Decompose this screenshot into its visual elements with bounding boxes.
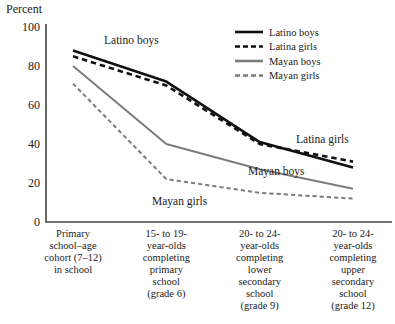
y-tick-40: 40 (28, 137, 40, 151)
x-axis-label-4: 20- to 24- (332, 228, 374, 239)
x-axis-label-4: year-olds (334, 240, 373, 251)
x-axis-label-1: cohort (7–12) (44, 252, 102, 264)
x-axis-label-2: completing (143, 252, 191, 263)
y-tick-0: 0 (34, 215, 40, 229)
annotation-mayan-boys: Mayan boys (248, 165, 305, 178)
y-axis-title: Percent (6, 2, 43, 16)
x-axis-label-2: primary (150, 264, 184, 275)
x-axis-label-1: Primary (56, 228, 91, 239)
x-axis-label-2: school (153, 276, 180, 287)
x-axis-label-3: lower (248, 264, 272, 275)
chart-legend: Latino boysLatina girlsMayan boysMayan g… (235, 27, 321, 82)
x-axis-label-4: upper (341, 264, 365, 275)
x-axis-label-4: school (339, 288, 366, 299)
annotation-mayan-girls: Mayan girls (152, 195, 208, 208)
chart-container: Percent 100 80 60 40 20 0 Latino boysLat… (0, 0, 395, 324)
x-axis-label-4: secondary (332, 276, 375, 287)
series-line-latino-boys (73, 50, 353, 167)
x-axis-label-3: school (246, 288, 273, 299)
x-axis-label-4: completing (329, 252, 377, 263)
x-axis-label-1: school–age (49, 240, 97, 251)
y-tick-80: 80 (28, 59, 40, 73)
x-axis-label-3: secondary (238, 276, 281, 287)
x-axis-label-3: (grade 9) (241, 300, 280, 312)
x-axis-label-3: 20- to 24- (239, 228, 281, 239)
y-tick-100: 100 (22, 20, 40, 34)
chart-axes (46, 24, 392, 222)
y-tick-20: 20 (28, 176, 40, 190)
legend-label-latina-girls: Latina girls (269, 41, 317, 52)
line-chart: Percent 100 80 60 40 20 0 Latino boysLat… (0, 0, 395, 324)
annotation-latino-boys: Latino boys (104, 34, 159, 47)
x-axis-label-2: year-olds (147, 240, 186, 251)
x-axis-label-3: year-olds (240, 240, 279, 251)
x-axis-label-2: 15- to 19- (146, 228, 188, 239)
legend-label-mayan-boys: Mayan boys (269, 56, 321, 67)
x-axis-label-3: completing (236, 252, 284, 263)
x-axis-label-4: (grade 12) (331, 300, 375, 312)
y-tick-60: 60 (28, 98, 40, 112)
x-axis-label-1: in school (54, 264, 92, 275)
legend-label-mayan-girls: Mayan girls (269, 70, 319, 81)
x-axis-label-2: (grade 6) (147, 288, 186, 300)
x-axis-labels: Primaryschool–agecohort (7–12)in school1… (44, 228, 377, 312)
annotation-latina-girls: Latina girls (296, 133, 349, 146)
legend-label-latino-boys: Latino boys (269, 27, 319, 38)
